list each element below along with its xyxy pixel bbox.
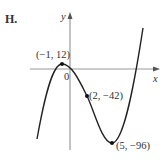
cubic-graph <box>0 0 166 162</box>
cubic-curve <box>37 28 143 143</box>
local-min-label: (5, −96) <box>116 141 150 152</box>
y-axis-label: y <box>61 12 66 23</box>
x-axis-arrow-icon <box>153 67 160 72</box>
origin-label: 0 <box>64 72 69 83</box>
x-axis-label: x <box>153 74 158 85</box>
local-max-point <box>60 62 64 66</box>
local-min-point <box>110 141 114 145</box>
local-max-label: (−1, 12) <box>36 50 70 61</box>
inflection-label: (2, −42) <box>89 91 123 102</box>
y-axis-arrow-icon <box>68 12 73 19</box>
